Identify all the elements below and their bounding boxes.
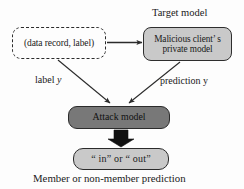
edge-data-record-to-attack-model [58,60,110,103]
node-attack-model-label: Attack model [92,112,145,123]
edge-label-data-to-attack: label y [35,74,61,85]
node-output-label: “ in” or “ out” [91,153,151,164]
edge-label-text: label [35,74,54,85]
diagram-canvas: Target model (data record, label) Malici… [0,0,244,189]
edge-prediction-text: prediction [160,75,201,86]
node-output[interactable]: “ in” or “ out” [73,148,169,170]
node-data-record[interactable]: (data record, label) [12,27,106,59]
node-attack-model[interactable]: Attack model [68,106,170,129]
edge-label-variable: y [57,74,61,85]
node-target-model[interactable]: Malicious client’ s private model [143,27,232,61]
node-data-record-label: (data record, label) [24,38,94,49]
edge-label-target-to-attack: prediction y [160,75,208,86]
edge-prediction-variable: y [203,75,208,86]
node-target-model-label-line1: Malicious client’ s [154,34,221,44]
node-target-model-label: Malicious client’ s private model [154,34,221,55]
edge-attack-model-to-output [108,130,134,147]
node-target-model-label-line2: private model [154,44,221,54]
target-model-group-label: Target model [152,7,207,18]
diagram-caption: Member or non-member prediction [33,172,186,184]
